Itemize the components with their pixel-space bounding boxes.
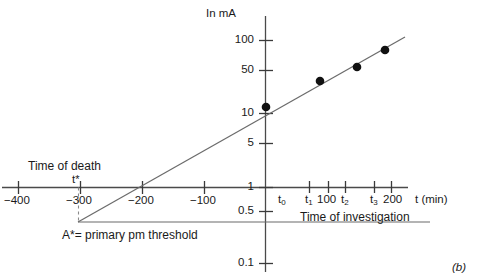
- y-tick-label-5: 5: [216, 137, 254, 149]
- t-star-label-superscript: *: [75, 173, 79, 185]
- y-tick-label-50: 50: [216, 64, 254, 76]
- figure-caption: (b): [452, 262, 466, 274]
- data-point: [353, 63, 362, 72]
- x-tick-label-t3-subscript: 3: [373, 198, 377, 207]
- y-tick-label-0-5: 0.5: [216, 205, 254, 217]
- data-point: [262, 103, 271, 112]
- time-of-death-label: Time of death: [28, 160, 101, 172]
- t-star-label: t*: [72, 174, 79, 186]
- x-tick-label-200: 200: [383, 194, 402, 206]
- x-tick-label-minus-100: −100: [190, 195, 216, 207]
- y-tick-label-100: 100: [216, 34, 254, 46]
- time-of-investigation-label: Time of investigation: [300, 211, 410, 223]
- data-point: [381, 46, 390, 55]
- data-point: [316, 77, 325, 86]
- x-tick-label-minus-400: −400: [4, 195, 30, 207]
- x-tick-label-t1-subscript: 1: [308, 198, 312, 207]
- x-tick-label-t2: t2: [341, 194, 349, 207]
- x-tick-label-t1: t1: [305, 194, 313, 207]
- threshold-label: A*= primary pm threshold: [62, 229, 198, 241]
- x-tick-label-t0: t0: [278, 194, 286, 207]
- x-tick-label-t2-subscript: 2: [344, 198, 348, 207]
- figure-container: In mA 100 50 10 5 1 0.5 0.1 −400 −300 −2…: [0, 0, 477, 280]
- x-axis-label: t (min): [415, 194, 448, 206]
- x-tick-label-100: 100: [317, 194, 336, 206]
- x-tick-label-minus-200: −200: [128, 195, 154, 207]
- x-tick-label-minus-300: −300: [66, 195, 92, 207]
- x-tick-label-t0-subscript: 0: [281, 198, 285, 207]
- y-tick-label-1: 1: [216, 181, 254, 193]
- y-axis-label: In mA: [206, 8, 236, 20]
- y-tick-label-0-1: 0.1: [216, 257, 254, 269]
- x-tick-label-t3: t3: [370, 194, 378, 207]
- y-tick-label-10: 10: [216, 107, 254, 119]
- data-points: [262, 46, 390, 112]
